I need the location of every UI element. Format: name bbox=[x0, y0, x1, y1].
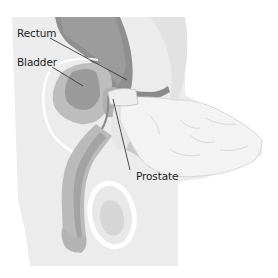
label-prostate: Prostate bbox=[136, 170, 178, 182]
pelvis-cross-section-illustration bbox=[0, 0, 278, 278]
bladder-inner bbox=[65, 69, 100, 110]
anatomy-diagram: Rectum Bladder Prostate bbox=[0, 0, 278, 278]
label-rectum: Rectum bbox=[17, 27, 56, 39]
examining-finger bbox=[108, 88, 138, 106]
label-bladder: Bladder bbox=[17, 56, 57, 68]
